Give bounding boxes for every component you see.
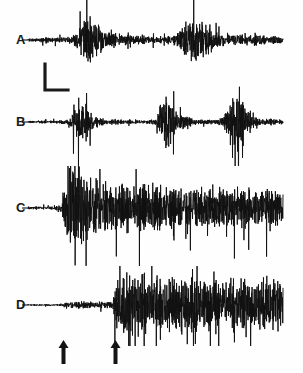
trace-b bbox=[0, 82, 303, 166]
trace-c bbox=[0, 166, 303, 266]
arrival-arrow-2 bbox=[109, 336, 123, 366]
trace-d bbox=[0, 266, 303, 346]
waveform-path-d bbox=[28, 266, 283, 346]
waveform-path-c bbox=[28, 166, 283, 266]
waveform-path-b bbox=[28, 87, 283, 166]
arrival-arrow-1 bbox=[57, 336, 71, 366]
waveform-path-a bbox=[28, 0, 283, 62]
seismogram-figure: A B C D bbox=[0, 0, 303, 373]
